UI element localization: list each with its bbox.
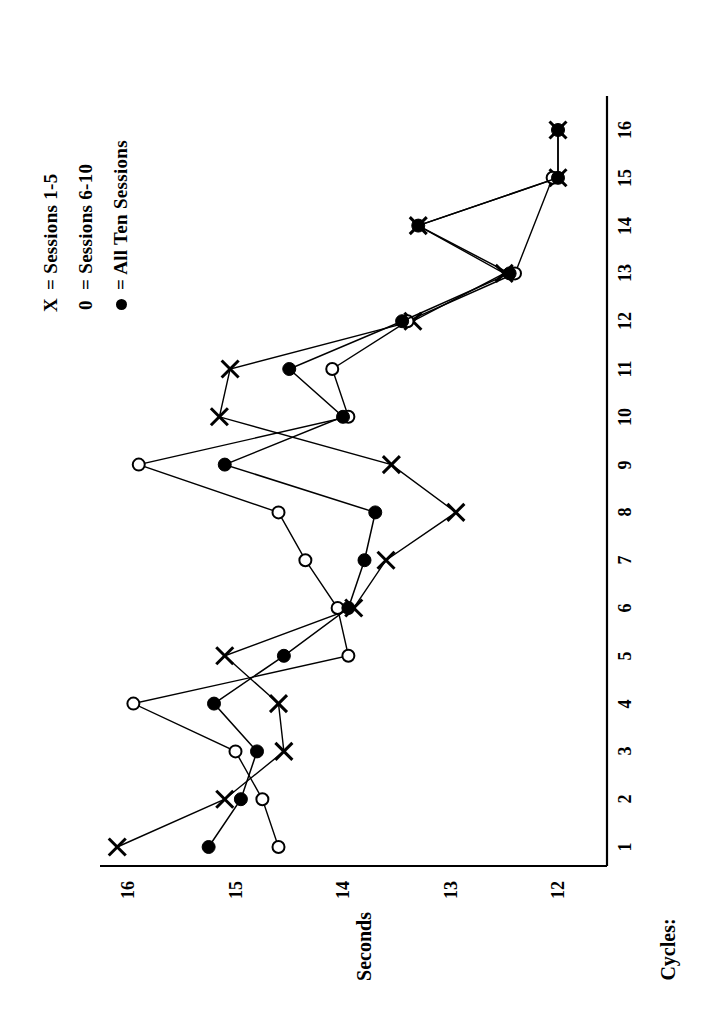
cycle-tick-1: 1	[614, 830, 636, 864]
cycle-tick-14: 14	[614, 209, 636, 243]
filled-circle-marker-icon	[503, 267, 516, 280]
filled-circle-marker-icon	[358, 554, 371, 567]
axis-lines	[100, 96, 607, 866]
filled-circle-marker-icon	[337, 410, 350, 423]
open-circle-marker-icon	[256, 793, 268, 805]
chart-svg	[0, 0, 706, 1016]
cycle-tick-2: 2	[614, 782, 636, 816]
series-line	[133, 178, 552, 847]
series-all-ten-sessions	[202, 124, 564, 854]
open-circle-marker-icon	[133, 459, 145, 471]
filled-circle-marker-icon	[552, 124, 565, 137]
seconds-tick-14: 14	[332, 873, 354, 907]
chart-plot-area: 12345678910111213141516 1615141312 Secon…	[0, 0, 706, 1016]
seconds-axis-title: Seconds	[353, 912, 376, 981]
series-line	[209, 130, 558, 847]
filled-circle-marker-icon	[369, 506, 382, 519]
cycle-tick-9: 9	[614, 448, 636, 482]
filled-circle-marker-icon	[412, 219, 425, 232]
cycle-tick-4: 4	[614, 687, 636, 721]
open-circle-marker-icon	[127, 698, 139, 710]
open-circle-marker-icon	[273, 506, 285, 518]
open-circle-marker-icon	[342, 650, 354, 662]
cycle-tick-12: 12	[614, 304, 636, 338]
open-circle-marker-icon	[230, 745, 242, 757]
open-circle-marker-icon	[299, 554, 311, 566]
cycle-tick-15: 15	[614, 161, 636, 195]
filled-circle-marker-icon	[342, 602, 355, 615]
cycle-tick-8: 8	[614, 495, 636, 529]
data-series-layer	[109, 122, 567, 856]
filled-circle-marker-icon	[396, 315, 409, 328]
series-sessions-6-10	[127, 172, 558, 853]
seconds-tick-12: 12	[547, 873, 569, 907]
filled-circle-marker-icon	[277, 649, 290, 662]
cycle-tick-10: 10	[614, 400, 636, 434]
cycle-tick-5: 5	[614, 639, 636, 673]
filled-circle-marker-icon	[234, 793, 247, 806]
open-circle-marker-icon	[326, 363, 338, 375]
cycle-tick-11: 11	[614, 352, 636, 386]
cycle-tick-3: 3	[614, 734, 636, 768]
cycle-tick-7: 7	[614, 543, 636, 577]
series-sessions-1-5	[109, 122, 567, 856]
filled-circle-marker-icon	[283, 363, 296, 376]
filled-circle-marker-icon	[251, 745, 264, 758]
open-circle-marker-icon	[273, 841, 285, 853]
filled-circle-marker-icon	[208, 697, 221, 710]
filled-circle-marker-icon	[218, 458, 231, 471]
filled-circle-marker-icon	[202, 841, 215, 854]
cycle-tick-16: 16	[614, 113, 636, 147]
seconds-tick-16: 16	[117, 873, 139, 907]
cycle-tick-13: 13	[614, 256, 636, 290]
seconds-tick-15: 15	[225, 873, 247, 907]
series-line	[117, 130, 558, 847]
figure-page: X = Sessions 1-5 0 = Sessions 6-10 = All…	[0, 0, 706, 1016]
cycles-axis-title: Cycles:	[657, 918, 680, 980]
cycle-tick-6: 6	[614, 591, 636, 625]
filled-circle-marker-icon	[552, 171, 565, 184]
seconds-tick-13: 13	[440, 873, 462, 907]
